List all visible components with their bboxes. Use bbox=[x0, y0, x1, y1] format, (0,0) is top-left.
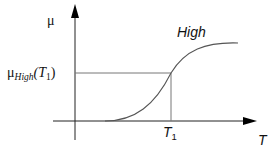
x-marker-label: T1 bbox=[163, 124, 177, 142]
x-axis-label: T bbox=[258, 132, 268, 148]
y-marker-label: μHigh(T1) bbox=[7, 65, 56, 82]
x-marker-subscript: 1 bbox=[172, 131, 177, 142]
x-axis-arrow-icon bbox=[243, 117, 257, 125]
y-marker-close: ) bbox=[51, 65, 56, 81]
membership-diagram: μ T High μHigh(T1) T1 bbox=[0, 0, 274, 153]
y-axis-arrow-icon bbox=[71, 4, 79, 18]
y-marker-subscript: High bbox=[14, 72, 34, 82]
y-marker-mu: μ bbox=[7, 65, 15, 80]
y-axis-label: μ bbox=[47, 13, 55, 28]
curve-label-high: High bbox=[177, 24, 206, 40]
